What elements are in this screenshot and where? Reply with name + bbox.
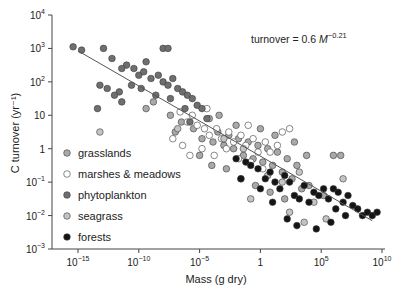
data-point xyxy=(167,95,174,102)
legend-label: grasslands xyxy=(78,147,132,159)
data-point xyxy=(97,129,104,136)
data-point xyxy=(223,145,230,152)
data-point xyxy=(262,139,269,146)
y-tick-label: 102 xyxy=(30,75,45,88)
data-point xyxy=(100,45,107,52)
data-point xyxy=(269,199,276,206)
data-point xyxy=(260,159,267,166)
data-point xyxy=(286,179,293,186)
data-point xyxy=(262,176,269,183)
data-point xyxy=(199,105,206,112)
data-point xyxy=(165,45,172,52)
data-point xyxy=(170,135,177,142)
data-point xyxy=(255,142,262,149)
data-point xyxy=(274,142,281,149)
data-point xyxy=(284,216,291,223)
data-point xyxy=(247,162,254,169)
data-point xyxy=(277,186,284,193)
data-point xyxy=(150,99,157,106)
legend-label: seagrass xyxy=(78,210,123,222)
x-axis-ticks: 10−1510−1010−511051010 xyxy=(67,249,392,268)
x-tick-label: 10−15 xyxy=(67,255,90,268)
data-point xyxy=(238,132,245,139)
data-point xyxy=(143,59,150,66)
chart-canvas: 10410310210110−110−210−3 10−1510−1010−51… xyxy=(0,0,404,299)
y-tick-label: 1 xyxy=(39,144,45,155)
data-point xyxy=(316,192,323,199)
legend-marker xyxy=(64,234,71,241)
legend-marker xyxy=(64,192,71,199)
data-point xyxy=(143,105,150,112)
data-point xyxy=(250,135,257,142)
data-point xyxy=(342,212,349,219)
data-point xyxy=(119,99,126,106)
data-point xyxy=(284,155,291,162)
data-point xyxy=(94,105,101,112)
data-point xyxy=(286,125,293,132)
data-point xyxy=(223,166,230,173)
data-point xyxy=(199,145,206,152)
data-point xyxy=(233,155,240,162)
data-point xyxy=(187,152,194,159)
data-point xyxy=(294,162,301,169)
x-tick-label: 1010 xyxy=(373,255,392,268)
data-point xyxy=(119,65,126,72)
legend: grasslandsmarshes & meadowsphytoplankton… xyxy=(64,147,182,243)
data-point xyxy=(306,199,313,206)
data-point xyxy=(111,92,118,99)
data-point xyxy=(104,85,111,92)
data-point xyxy=(328,219,335,226)
data-point xyxy=(204,115,211,122)
data-point xyxy=(267,169,274,176)
data-point xyxy=(272,179,279,186)
fit-equation-annotation: turnover = 0.6 M−0.21 xyxy=(251,31,347,45)
data-point xyxy=(291,139,298,146)
y-tick-label: 10 xyxy=(34,110,46,121)
data-point xyxy=(206,132,213,139)
data-point xyxy=(279,129,286,136)
data-points xyxy=(70,44,381,233)
x-tick-label: 105 xyxy=(314,255,329,268)
data-point xyxy=(155,72,162,79)
data-point xyxy=(233,122,240,129)
data-point xyxy=(209,162,216,169)
data-point xyxy=(374,209,381,216)
data-point xyxy=(178,119,185,126)
data-point xyxy=(337,152,344,159)
data-point xyxy=(194,122,201,129)
data-point xyxy=(313,226,320,233)
data-point xyxy=(230,145,237,152)
data-point xyxy=(148,75,155,82)
y-tick-label: 10−3 xyxy=(26,242,45,255)
data-point xyxy=(131,65,138,72)
data-point xyxy=(216,112,223,119)
scatter-chart: 10410310210110−110−210−3 10−1510−1010−51… xyxy=(0,0,404,299)
x-tick-label: 1 xyxy=(258,257,264,268)
legend-marker xyxy=(64,213,71,220)
data-point xyxy=(333,206,340,213)
y-tick-label: 10−1 xyxy=(26,175,45,188)
data-point xyxy=(199,135,206,142)
data-point xyxy=(210,139,217,146)
data-point xyxy=(301,219,308,226)
data-point xyxy=(238,176,245,183)
data-point xyxy=(294,222,301,229)
data-point xyxy=(140,69,147,76)
data-point xyxy=(167,112,174,119)
data-point xyxy=(165,82,172,89)
data-point xyxy=(174,125,181,132)
data-point xyxy=(286,209,293,216)
data-point xyxy=(170,75,177,82)
y-axis-ticks: 10410310210110−110−210−3 xyxy=(26,8,52,255)
data-point xyxy=(255,166,262,173)
legend-marker xyxy=(64,171,71,178)
x-axis-label: Mass (g dry) xyxy=(185,273,246,285)
x-tick-label: 10−5 xyxy=(190,255,209,268)
data-point xyxy=(179,142,186,149)
data-point xyxy=(226,129,233,136)
data-point xyxy=(211,152,218,159)
data-point xyxy=(296,196,303,203)
data-point xyxy=(281,196,288,203)
data-point xyxy=(303,152,310,159)
legend-label: phytoplankton xyxy=(78,189,147,201)
